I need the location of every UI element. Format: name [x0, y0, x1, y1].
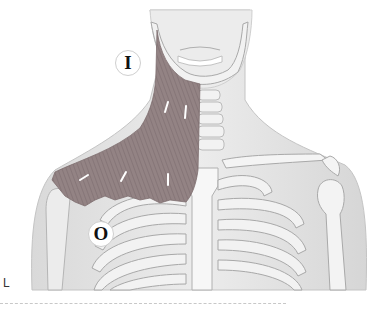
origin-label-text: O — [94, 223, 109, 245]
insertion-label-text: I — [124, 52, 131, 74]
anatomy-drawing — [0, 0, 378, 309]
anatomy-illustration: I O L — [0, 0, 378, 309]
origin-label: O — [88, 221, 114, 247]
side-marker: L — [3, 276, 10, 290]
dashed-divider — [0, 303, 286, 304]
insertion-label: I — [115, 50, 141, 76]
